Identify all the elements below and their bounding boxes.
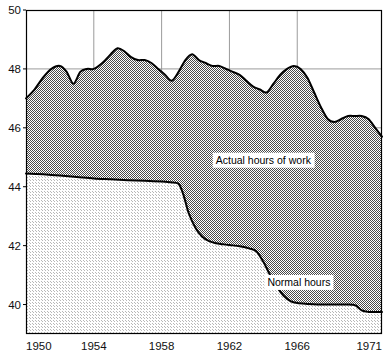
- y-tick-label: 40: [8, 299, 21, 311]
- x-tick-label: 1954: [81, 340, 107, 352]
- y-tick-label: 46: [8, 122, 21, 134]
- x-tick-label: 1950: [26, 340, 52, 352]
- x-tick-label: 1966: [284, 340, 310, 352]
- chart-svg: 195019541958196219661971 404244464850 Ac…: [0, 0, 392, 360]
- y-tick-label: 50: [8, 4, 21, 16]
- y-tick-label: 48: [8, 63, 21, 75]
- x-axis-tick-labels: 195019541958196219661971: [26, 340, 382, 352]
- actual-hours-label: Actual hours of work: [213, 153, 315, 168]
- y-tick-label: 42: [8, 240, 21, 252]
- normal-hours-label-text: Normal hours: [267, 276, 330, 288]
- chart-container: 195019541958196219661971 404244464850 Ac…: [0, 0, 392, 360]
- normal-hours-label: Normal hours: [264, 275, 333, 290]
- actual-hours-label-text: Actual hours of work: [216, 154, 312, 166]
- x-tick-label: 1962: [217, 340, 243, 352]
- y-tick-label: 44: [8, 181, 21, 193]
- x-tick-label: 1958: [149, 340, 175, 352]
- x-tick-label: 1971: [356, 340, 382, 352]
- y-axis-tick-labels: 404244464850: [8, 4, 26, 311]
